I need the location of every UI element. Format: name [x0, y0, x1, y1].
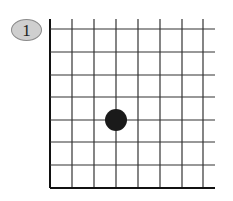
black-stone	[105, 109, 127, 131]
go-board	[0, 0, 233, 201]
